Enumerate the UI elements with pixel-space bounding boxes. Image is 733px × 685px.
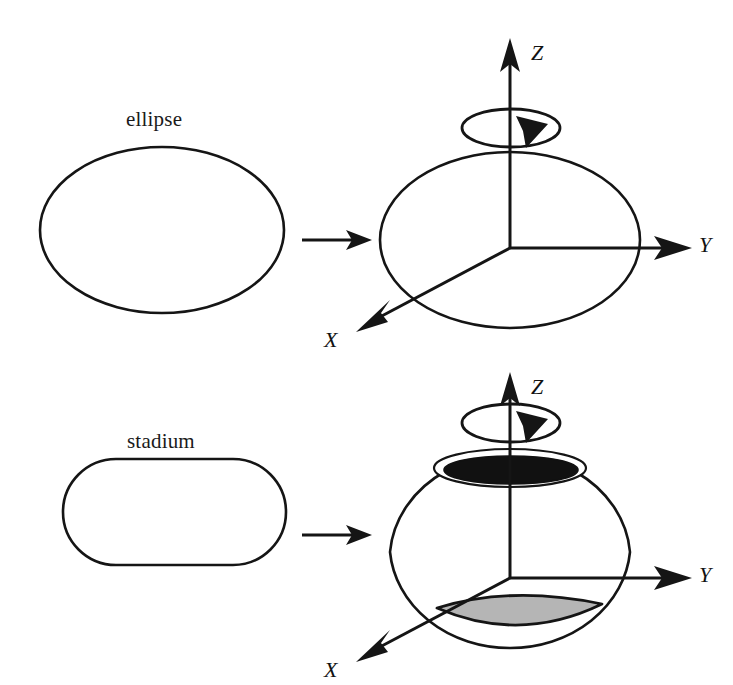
- ellipsoid-of-revolution: [356, 38, 692, 332]
- z-axis-label-bottom: Z: [531, 374, 543, 400]
- y-axis-label-top: Y: [699, 232, 711, 258]
- x-axis-label-top: X: [324, 327, 337, 353]
- z-axis-label-top: Z: [531, 40, 543, 66]
- ellipse-source-shape: [40, 147, 284, 313]
- top-transition-arrow: [302, 230, 372, 250]
- figure-diagram-svg: [0, 0, 733, 685]
- x-axis-label-bottom: X: [324, 657, 337, 683]
- stadium-of-revolution: [356, 372, 692, 662]
- bottom-transition-arrow: [302, 525, 372, 545]
- figure-root: ellipse stadium Z Y X Z Y X: [0, 0, 733, 685]
- y-axis-label-bottom: Y: [699, 562, 711, 588]
- bottom-flat-gray-region: [437, 595, 602, 625]
- stadium-caption: stadium: [127, 429, 195, 454]
- stadium-source-shape: [63, 459, 286, 565]
- ellipse-caption: ellipse: [126, 107, 182, 132]
